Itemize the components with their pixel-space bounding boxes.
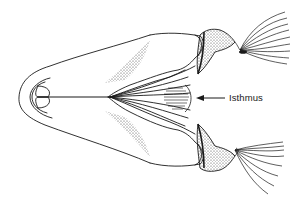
lower-fin-rays [235, 142, 284, 194]
fish-head-drawing [0, 0, 305, 209]
fish-head-diagram: Isthmus [0, 0, 305, 209]
isthmus-label: Isthmus [229, 92, 263, 103]
upper-plate [108, 33, 203, 97]
upper-fin-rays [235, 12, 290, 64]
lip-lower [36, 97, 50, 108]
isthmus-arrow [196, 95, 225, 101]
lip-upper [36, 86, 50, 97]
